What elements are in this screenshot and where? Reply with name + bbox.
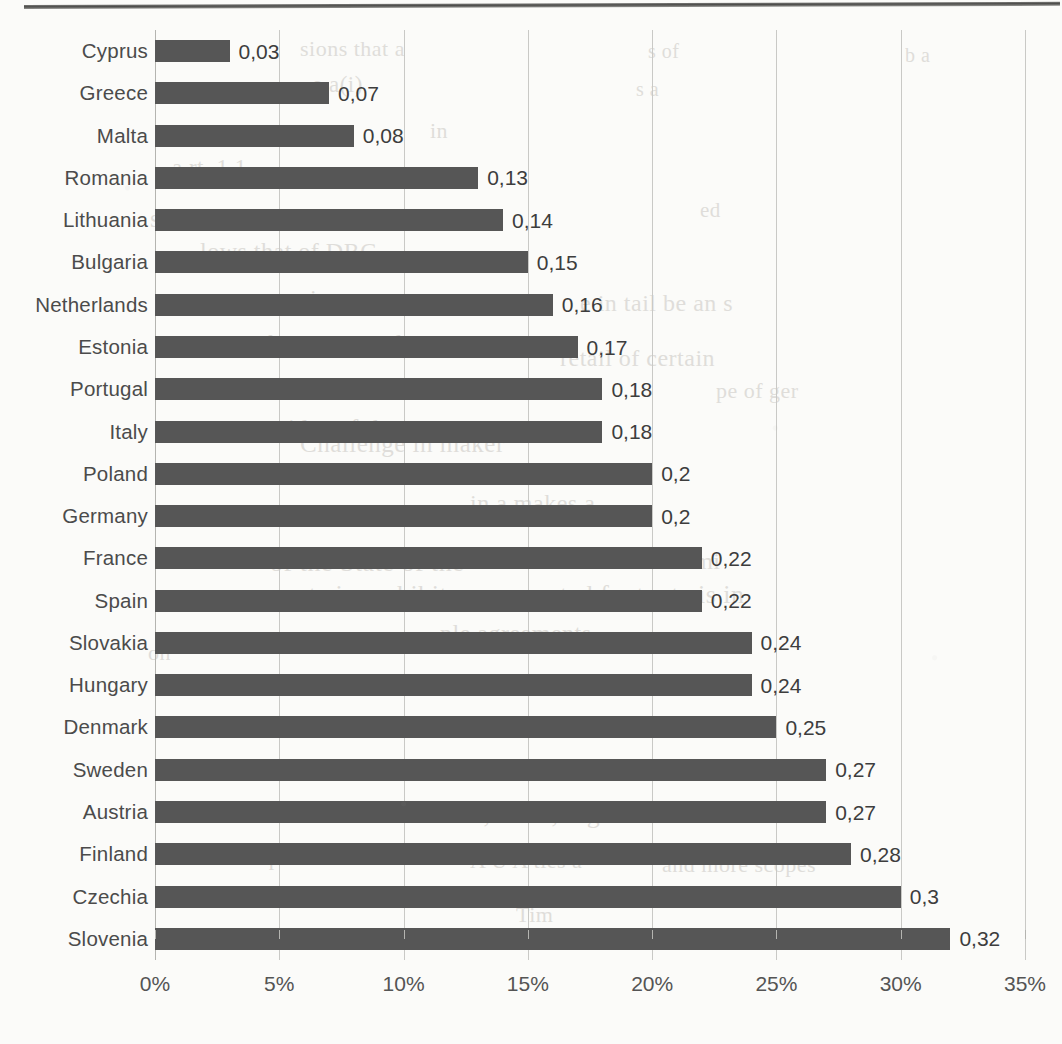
gridline-35pct xyxy=(1025,30,1026,960)
bar-value-label: 0,25 xyxy=(785,717,826,738)
bar-czechia xyxy=(155,886,901,908)
bar-wrapper: 0,16 xyxy=(155,294,603,316)
category-label-text: Greece xyxy=(80,81,148,105)
bar-slovakia xyxy=(155,632,752,654)
bar-lithuania xyxy=(155,209,503,231)
category-label-text: Estonia xyxy=(78,335,148,359)
bar-row: 0,32 xyxy=(155,918,1025,960)
bar-denmark xyxy=(155,716,776,738)
bar-row: 0,28 xyxy=(155,833,1025,875)
bar-row: 0,25 xyxy=(155,706,1025,748)
bar-wrapper: 0,18 xyxy=(155,421,652,443)
x-axis-tick-label: 15% xyxy=(507,972,549,996)
bar-row: 0,14 xyxy=(155,199,1025,241)
bar-wrapper: 0,24 xyxy=(155,632,801,654)
category-label-text: Lithuania xyxy=(63,208,148,232)
category-axis-labels: CyprusGreeceMaltaRomaniaLithuaniaBulgari… xyxy=(0,30,148,960)
category-label-portugal: Portugal xyxy=(0,368,148,410)
bar-row: 0,2 xyxy=(155,453,1025,495)
bar-wrapper: 0,22 xyxy=(155,590,752,612)
x-axis-tick-label: 10% xyxy=(383,972,425,996)
bar-wrapper: 0,32 xyxy=(155,928,1000,950)
bar-estonia xyxy=(155,336,578,358)
bar-cyprus xyxy=(155,40,230,62)
category-label-text: Cyprus xyxy=(82,39,148,63)
bar-portugal xyxy=(155,378,602,400)
bar-value-label: 0,2 xyxy=(661,506,690,527)
x-tick-0pct xyxy=(155,930,156,939)
bar-wrapper: 0,13 xyxy=(155,167,528,189)
bar-value-label: 0,08 xyxy=(363,125,404,146)
bar-value-label: 0,2 xyxy=(661,463,690,484)
bar-netherlands xyxy=(155,294,553,316)
bar-value-label: 0,24 xyxy=(761,632,802,653)
x-tick-15pct xyxy=(528,930,529,939)
category-label-estonia: Estonia xyxy=(0,326,148,368)
bar-romania xyxy=(155,167,478,189)
category-label-lithuania: Lithuania xyxy=(0,199,148,241)
bar-france xyxy=(155,547,702,569)
x-tick-10pct xyxy=(404,930,405,939)
category-label-slovenia: Slovenia xyxy=(0,918,148,960)
bar-italy xyxy=(155,421,602,443)
bar-wrapper: 0,22 xyxy=(155,547,752,569)
bar-wrapper: 0,24 xyxy=(155,674,801,696)
bar-hungary xyxy=(155,674,752,696)
bar-value-label: 0,07 xyxy=(338,83,379,104)
bar-row: 0,16 xyxy=(155,284,1025,326)
bar-row: 0,27 xyxy=(155,791,1025,833)
category-label-malta: Malta xyxy=(0,115,148,157)
x-axis-tick-label: 0% xyxy=(140,972,170,996)
category-label-greece: Greece xyxy=(0,72,148,114)
bar-value-label: 0,18 xyxy=(611,421,652,442)
category-label-text: Finland xyxy=(79,842,148,866)
bar-wrapper: 0,08 xyxy=(155,125,404,147)
x-tick-30pct xyxy=(901,930,902,939)
bar-row: 0,03 xyxy=(155,30,1025,72)
bar-value-label: 0,22 xyxy=(711,590,752,611)
x-tick-20pct xyxy=(652,930,653,939)
x-axis-tick-label: 20% xyxy=(631,972,673,996)
category-label-text: Slovakia xyxy=(69,631,148,655)
bar-slovenia xyxy=(155,928,950,950)
bar-sweden xyxy=(155,759,826,781)
plot-area: 0,030,070,080,130,140,150,160,170,180,18… xyxy=(155,30,1025,960)
bar-row: 0,22 xyxy=(155,580,1025,622)
x-axis-tick-label: 30% xyxy=(880,972,922,996)
category-label-text: Italy xyxy=(109,420,148,444)
bar-wrapper: 0,28 xyxy=(155,843,901,865)
category-label-text: Sweden xyxy=(73,758,148,782)
bar-poland xyxy=(155,463,652,485)
bar-row: 0,07 xyxy=(155,72,1025,114)
category-label-text: Poland xyxy=(83,462,148,486)
bar-row: 0,3 xyxy=(155,875,1025,917)
category-label-bulgaria: Bulgaria xyxy=(0,241,148,283)
category-label-text: Netherlands xyxy=(35,293,148,317)
bar-chart: CyprusGreeceMaltaRomaniaLithuaniaBulgari… xyxy=(0,0,1062,1044)
bar-germany xyxy=(155,505,652,527)
bar-row: 0,2 xyxy=(155,495,1025,537)
bar-value-label: 0,22 xyxy=(711,548,752,569)
bar-value-label: 0,27 xyxy=(835,759,876,780)
bar-spain xyxy=(155,590,702,612)
category-label-czechia: Czechia xyxy=(0,875,148,917)
bar-value-label: 0,16 xyxy=(562,294,603,315)
category-label-denmark: Denmark xyxy=(0,706,148,748)
bar-row: 0,22 xyxy=(155,537,1025,579)
category-label-netherlands: Netherlands xyxy=(0,284,148,326)
bar-wrapper: 0,3 xyxy=(155,886,939,908)
bar-bulgaria xyxy=(155,251,528,273)
bar-row: 0,24 xyxy=(155,622,1025,664)
x-axis-tick-label: 35% xyxy=(1004,972,1046,996)
bar-wrapper: 0,17 xyxy=(155,336,627,358)
category-label-france: France xyxy=(0,537,148,579)
bar-wrapper: 0,2 xyxy=(155,463,690,485)
category-label-text: Bulgaria xyxy=(71,250,148,274)
category-label-text: Malta xyxy=(97,124,148,148)
bar-wrapper: 0,14 xyxy=(155,209,553,231)
category-label-text: Denmark xyxy=(63,715,148,739)
category-label-text: France xyxy=(83,546,148,570)
category-label-sweden: Sweden xyxy=(0,749,148,791)
category-label-poland: Poland xyxy=(0,453,148,495)
x-tick-5pct xyxy=(279,930,280,939)
